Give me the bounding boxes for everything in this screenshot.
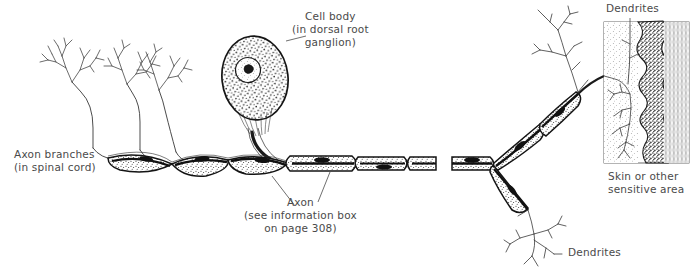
schwann-nucleus bbox=[314, 157, 330, 163]
skin-block-group bbox=[604, 18, 689, 163]
axon-branches-group bbox=[40, 38, 192, 163]
schwann-nucleus bbox=[376, 164, 392, 169]
schwann-nucleus bbox=[464, 157, 480, 163]
neuron-diagram-figure: Cell body (in dorsal root ganglion) Axon… bbox=[0, 0, 691, 279]
axon-branch-tree-1 bbox=[40, 38, 104, 82]
axon-branch-stem-2 bbox=[127, 84, 140, 150]
cell-body-nucleolus bbox=[244, 65, 254, 74]
label-axon-branches: Axon branches (in spinal cord) bbox=[14, 148, 96, 174]
dendrite-tree-upper bbox=[532, 6, 588, 92]
axon-branch-tree-2 bbox=[104, 40, 160, 84]
dendrite-tree-lower bbox=[504, 210, 566, 266]
axon-myelin-left-group bbox=[108, 152, 290, 176]
label-cell-body: Cell body (in dorsal root ganglion) bbox=[292, 10, 369, 49]
axon-branch-stem-1 bbox=[72, 82, 93, 148]
axon-to-skin-connector bbox=[578, 76, 604, 94]
axon-myelin-right-group bbox=[452, 76, 604, 213]
cell-body-group bbox=[218, 33, 306, 165]
label-skin: Skin or other sensitive area bbox=[608, 170, 684, 196]
label-dendrites-bottom: Dendrites bbox=[568, 246, 621, 259]
label-axon: Axon (see information box on page 308) bbox=[244, 196, 357, 235]
axon-branch-tree-3 bbox=[137, 44, 192, 90]
skin-epidermis-layer bbox=[664, 22, 689, 163]
axon-branch-stem-3 bbox=[159, 90, 176, 152]
label-dendrites-top: Dendrites bbox=[606, 2, 659, 15]
